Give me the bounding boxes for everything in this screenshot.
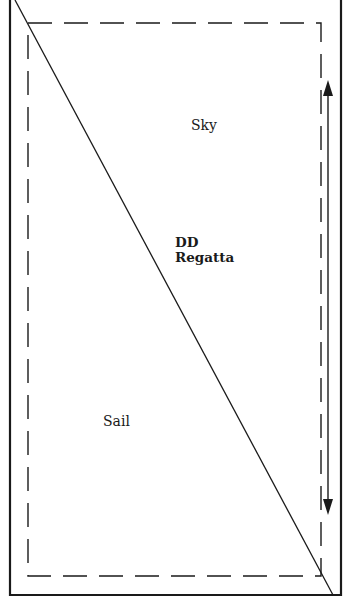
title-line-1: DD — [175, 235, 234, 250]
double-headed-arrow — [323, 80, 333, 515]
sail-diagram: Sky DD Regatta Sail — [0, 0, 351, 597]
sail-label: Sail — [103, 413, 130, 429]
diagram-lines — [0, 0, 351, 597]
outer-frame — [10, 0, 341, 595]
arrow-up-icon — [323, 80, 333, 96]
title-line-2: Regatta — [175, 250, 234, 265]
diagonal-line — [15, 0, 333, 595]
arrow-down-icon — [323, 499, 333, 515]
title-label: DD Regatta — [175, 235, 234, 265]
sky-label: Sky — [191, 117, 217, 133]
